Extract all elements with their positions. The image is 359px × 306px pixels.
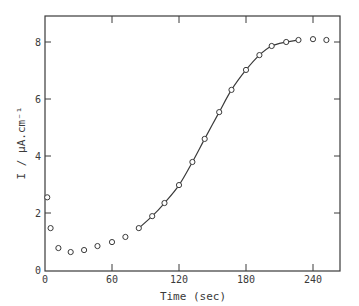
y-tick-label: 0 xyxy=(35,265,41,276)
y-axis-label: I / μA.cm⁻¹ xyxy=(15,107,28,180)
data-point xyxy=(162,200,167,205)
data-point xyxy=(68,249,73,254)
data-point xyxy=(123,234,128,239)
data-point xyxy=(269,43,274,48)
y-tick-label: 8 xyxy=(35,37,41,48)
x-tick-label: 120 xyxy=(170,274,188,285)
y-tick-label: 4 xyxy=(35,151,41,162)
data-point xyxy=(150,214,155,219)
fit-path xyxy=(139,40,299,228)
x-tick-label: 0 xyxy=(42,274,48,285)
data-point xyxy=(81,247,86,252)
y-tick-label: 2 xyxy=(35,208,41,219)
axis-ticks: 06012018024002468 xyxy=(35,16,340,285)
data-points xyxy=(45,37,329,255)
data-point xyxy=(56,245,61,250)
data-point xyxy=(324,37,329,42)
data-point xyxy=(243,67,248,72)
data-point xyxy=(257,53,262,58)
data-point xyxy=(95,243,100,248)
plot-frame xyxy=(45,16,340,271)
data-point xyxy=(284,39,289,44)
data-point xyxy=(190,159,195,164)
plot-border xyxy=(45,16,340,271)
x-tick-label: 60 xyxy=(106,274,118,285)
x-axis-label: Time (sec) xyxy=(160,290,226,303)
x-tick-label: 180 xyxy=(237,274,255,285)
fit-curve xyxy=(139,40,299,228)
data-point xyxy=(229,87,234,92)
data-point xyxy=(45,195,50,200)
x-tick-label: 240 xyxy=(304,274,322,285)
data-point xyxy=(109,239,114,244)
data-point xyxy=(136,226,141,231)
data-point xyxy=(48,226,53,231)
data-point xyxy=(217,110,222,115)
chart: 06012018024002468 Time (sec) I / μA.cm⁻¹ xyxy=(0,0,359,306)
data-point xyxy=(176,182,181,187)
data-point xyxy=(296,37,301,42)
data-point xyxy=(310,37,315,42)
data-point xyxy=(202,136,207,141)
y-tick-label: 6 xyxy=(35,94,41,105)
